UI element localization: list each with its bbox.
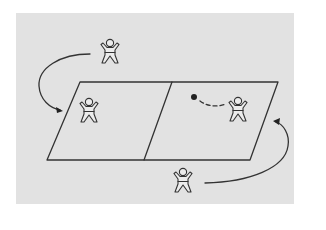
player-top-icon [101, 39, 119, 63]
arrowhead-right-icon [273, 118, 280, 125]
court-rotation-diagram [0, 0, 326, 230]
arrowhead-left-icon [56, 107, 63, 113]
player-bottom-icon [174, 168, 192, 192]
ball-trajectory [200, 101, 226, 106]
ball-icon [191, 94, 197, 100]
player-right-court-icon [229, 97, 247, 121]
rotation-arrow-right [205, 122, 288, 183]
court-center-line [144, 82, 172, 160]
player-left-court-icon [80, 98, 98, 122]
